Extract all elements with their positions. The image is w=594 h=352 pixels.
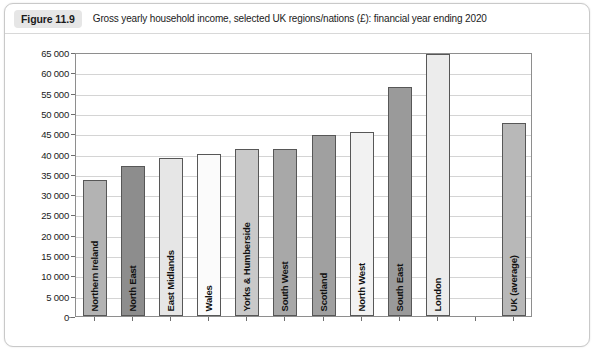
x-axis-tick-mark [399,317,400,321]
bar-category-label: UK (average) [509,255,519,311]
gridline [76,95,531,96]
figure-number-badge: Figure 11.9 [14,10,82,28]
bar: UK (average) [502,123,526,316]
y-axis-tick-mark [71,53,75,54]
y-axis-tick-label: 15 000 [41,251,69,262]
y-axis-tick-label: 45 000 [41,129,69,140]
y-axis-tick-label: 65 000 [41,48,69,59]
bar-category-label: Yorks & Humberside [243,222,253,311]
y-axis-tick-mark [71,276,75,277]
bar-chart: 65 00060 00055 00050 00045 00040 00035 0… [5,34,589,347]
y-axis-tick-mark [71,155,75,156]
y-axis-tick-mark [71,134,75,135]
y-axis-tick-label: 25 000 [41,210,69,221]
y-axis-tick-label: 60 000 [41,68,69,79]
figure-card: Figure 11.9 Gross yearly household incom… [4,3,590,347]
bar-category-label: South East [395,263,405,311]
bar: North East [121,166,145,316]
x-axis-tick-mark [246,317,247,321]
figure-header: Figure 11.9 Gross yearly household incom… [5,4,589,33]
y-axis-tick-mark [71,73,75,74]
y-axis-tick-label: 35 000 [41,169,69,180]
bar: Yorks & Humberside [235,149,259,316]
y-axis-tick-mark [71,94,75,95]
bar: Wales [197,154,221,316]
gridline [76,74,531,75]
x-axis-tick-mark [323,317,324,321]
bar-category-label: East Midlands [166,250,176,311]
bar: South West [273,149,297,316]
plot-area: Northern IrelandNorth EastEast MidlandsW… [75,53,532,317]
x-axis-tick-mark [513,317,514,321]
y-axis-tick-mark [71,317,75,318]
bar: South East [388,87,412,316]
y-axis-tick-mark [71,195,75,196]
bar: Northern Ireland [83,180,107,316]
y-axis-tick-mark [71,256,75,257]
x-axis-tick-mark [284,317,285,321]
y-axis-labels: 65 00060 00055 00050 00045 00040 00035 0… [17,34,69,347]
y-axis-tick-mark [71,297,75,298]
bar: East Midlands [159,158,183,316]
bar-category-label: Northern Ireland [90,240,100,311]
y-axis-tick-mark [71,114,75,115]
bar-category-label: South West [281,261,291,311]
x-axis-tick-mark [132,317,133,321]
x-axis-tick-mark [361,317,362,321]
y-axis-tick-label: 30 000 [41,190,69,201]
y-axis-tick-label: 40 000 [41,149,69,160]
y-axis-tick-mark [71,175,75,176]
x-axis-tick-mark [208,317,209,321]
x-axis-tick-mark [94,317,95,321]
y-axis-tick-label: 10 000 [41,271,69,282]
bar: North West [350,132,374,316]
bar-category-label: Wales [205,285,215,311]
x-axis-tick-mark [437,317,438,321]
figure-caption: Gross yearly household income, selected … [93,13,487,24]
y-axis-tick-label: 20 000 [41,230,69,241]
y-axis-tick-mark [71,236,75,237]
bar-category-label: North East [128,265,138,311]
x-axis-tick-mark [170,317,171,321]
y-axis-tick-label: 50 000 [41,108,69,119]
gridline [76,156,531,157]
y-axis-tick-label: 5 000 [46,291,69,302]
gridline [76,115,531,116]
bar-category-label: North West [357,263,367,312]
x-axis-tick-mark [475,317,476,321]
bar-category-label: London [433,277,443,311]
bar-category-label: Scotland [319,272,329,311]
y-axis-tick-mark [71,215,75,216]
bar: London [426,54,450,316]
bar: Scotland [312,135,336,316]
gridline [76,135,531,136]
y-axis-tick-label: 55 000 [41,88,69,99]
